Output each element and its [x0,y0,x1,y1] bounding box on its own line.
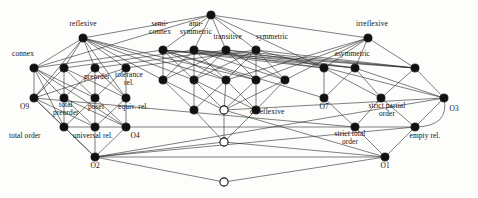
lattice-node-r2b[interactable] [60,64,68,72]
node-label-O4: O4 [131,132,140,140]
node-label-O9: O9 [20,103,29,111]
lattice-node-O1[interactable] [381,153,389,161]
node-label-poset: poset [88,103,104,111]
lattice-edge [194,50,355,68]
lattice-node-totalorder[interactable] [60,123,68,131]
lattice-node-r2r3[interactable] [411,64,419,72]
lattice-node-emptyrel[interactable] [411,123,419,131]
node-label-tolerance: tolerance rel. [115,71,143,86]
node-label-strictpartial: strict partial order [369,102,406,117]
lattice-node-asymmetric[interactable] [320,64,328,72]
node-label-coreflexive: coreflexive [250,108,284,116]
lattice-node-O2[interactable] [91,153,99,161]
lattice-node-symmetric[interactable] [252,46,260,54]
node-label-O3: O3 [450,105,459,113]
lattice-edge [256,80,285,110]
node-label-equivrel: equiv. rel. [118,103,148,111]
lattice-node-O9[interactable] [30,94,38,102]
lattice-edge [95,157,224,182]
node-label-emptyrel: empty rel. [410,132,441,140]
node-label-O2: O2 [91,162,100,170]
lattice-node-r2c5[interactable] [281,76,289,84]
node-label-totalorder: total order [9,132,41,140]
lattice-edge [415,68,444,98]
lattice-edge [163,80,194,110]
node-label-universalrel: universal rel. [73,132,113,140]
lattice-node-semiconnex[interactable] [159,46,167,54]
lattice-edge-long [34,38,83,98]
node-label-preorder: preorder [84,73,110,81]
lattice-node-r2c2[interactable] [190,76,198,84]
lattice-node-reflexive[interactable] [79,34,87,42]
node-label-antisymmetric: anti- symmetric [180,20,212,35]
lattice-edge-long [34,68,64,127]
node-label-O1: O1 [381,162,390,170]
lattice-node-top[interactable] [207,11,215,19]
lattice-edge [224,80,285,110]
lattice-node-poset[interactable] [91,94,99,102]
lattice-edge [95,142,224,157]
lattice-node-O4[interactable] [122,123,130,131]
node-label-totalpreorder: total preorder [53,101,79,116]
lattice-node-r2c3[interactable] [222,76,230,84]
node-label-reflexive: reflexive [70,20,97,28]
node-label-stricttotal: strict total order [335,130,366,145]
lattice-node-preorder[interactable] [91,64,99,72]
lattice-node-universalrel[interactable] [91,123,99,131]
node-label-connex: connex [12,50,34,58]
lattice-node-equivrel[interactable] [122,94,130,102]
lattice-node-m3a[interactable] [190,106,198,114]
lattice-edge [324,68,381,98]
hasse-diagram-canvas: reflexiveirreflexivesemi- connexanti- sy… [0,0,478,198]
lattice-edge [163,80,224,110]
node-label-O7: O7 [320,103,329,111]
lattice-edge-long [95,127,415,157]
lattice-node-antisymmetric[interactable] [190,46,198,54]
lattice-edge [224,157,385,182]
lattice-node-O3[interactable] [440,94,448,102]
lattice-graph-svg [0,0,478,198]
lattice-node-transitive[interactable] [222,46,230,54]
lattice-edge [324,68,355,98]
lattice-node-bottom[interactable] [220,178,228,186]
lattice-node-r2c1[interactable] [159,76,167,84]
lattice-edge [34,38,83,68]
lattice-node-O7[interactable] [320,94,328,102]
node-label-irreflexive: irreflexive [356,20,388,28]
lattice-node-connex[interactable] [30,64,38,72]
lattice-edge [34,68,126,98]
node-label-transitive: transitive [214,33,243,41]
node-label-asymmetric: asymmetric [335,50,370,58]
lattice-node-coreflexive[interactable] [220,106,228,114]
lattice-node-r2c4[interactable] [252,76,260,84]
node-label-symmetric: symmetric [256,33,288,41]
lattice-edge-long [34,68,126,127]
node-label-semiconnex: semi- connex [149,20,171,35]
lattice-node-irreflexive[interactable] [364,34,372,42]
lattice-node-hollow2[interactable] [220,138,228,146]
lattice-node-r2r2[interactable] [351,64,359,72]
